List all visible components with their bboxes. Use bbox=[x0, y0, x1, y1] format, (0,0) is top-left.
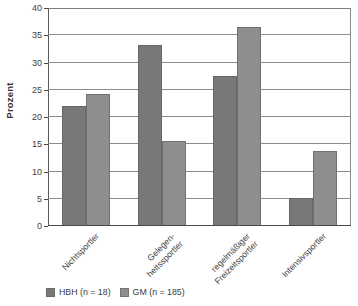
y-tick-label: 35 bbox=[32, 30, 42, 40]
legend-entry: GM (n = 185) bbox=[120, 287, 185, 297]
legend-label: HBH (n = 18) bbox=[59, 287, 111, 297]
y-tick-label: 20 bbox=[32, 112, 42, 122]
bar bbox=[237, 27, 261, 226]
legend-swatch bbox=[120, 288, 129, 297]
y-tick-label: 10 bbox=[32, 167, 42, 177]
y-tick-label: 30 bbox=[32, 58, 42, 68]
chart-legend: HBH (n = 18)GM (n = 185) bbox=[46, 287, 185, 297]
y-tick-label: 25 bbox=[32, 85, 42, 95]
bar-group bbox=[275, 8, 351, 226]
y-tick-label: 0 bbox=[37, 221, 42, 231]
legend-label: GM (n = 185) bbox=[133, 287, 185, 297]
bar-group bbox=[124, 8, 200, 226]
bar-group bbox=[48, 8, 124, 226]
y-tick-label: 15 bbox=[32, 139, 42, 149]
bar-group bbox=[200, 8, 276, 226]
y-tick-label: 40 bbox=[32, 3, 42, 13]
bar bbox=[162, 141, 186, 226]
bar-chart-figure: Prozent 0510152025303540 NichtsportlerGe… bbox=[0, 0, 358, 306]
bar bbox=[62, 106, 86, 226]
bar bbox=[213, 76, 237, 226]
bar bbox=[289, 198, 313, 226]
legend-entry: HBH (n = 18) bbox=[46, 287, 111, 297]
legend-swatch bbox=[46, 288, 55, 297]
bar bbox=[138, 45, 162, 226]
y-tick-mark bbox=[44, 226, 48, 227]
y-tick-label: 5 bbox=[37, 194, 42, 204]
plot-area: 0510152025303540 bbox=[48, 8, 351, 226]
bar bbox=[313, 151, 337, 226]
y-axis-title: Prozent bbox=[4, 71, 15, 131]
bar bbox=[86, 94, 110, 226]
x-axis-line bbox=[48, 225, 351, 226]
